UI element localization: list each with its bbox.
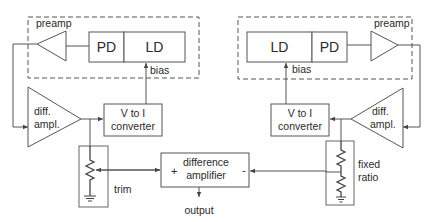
difference-amplifier-minus-input: - bbox=[242, 164, 246, 176]
difference-amplifier-plus-input: + bbox=[171, 165, 177, 177]
difference-amplifier-label-2: amplifier bbox=[186, 169, 226, 181]
right-laser-module: LD PD preamp bias bbox=[238, 17, 412, 79]
right-diff-amplifier: diff. ampl. bbox=[351, 88, 403, 148]
right-diff-amp-label-2: ampl. bbox=[370, 118, 396, 130]
output-label: output bbox=[184, 204, 213, 216]
right-pd-label: PD bbox=[320, 39, 339, 55]
left-laser-module: preamp PD LD bias bbox=[28, 17, 199, 78]
left-v-to-i-converter: V to I converter bbox=[104, 104, 162, 136]
left-vtoi-label-2: converter bbox=[111, 120, 155, 132]
fixed-ratio-label-2: ratio bbox=[358, 171, 379, 183]
left-diff-amp-label-2: ampl. bbox=[34, 118, 60, 130]
left-ld-label: LD bbox=[146, 39, 164, 55]
trim-box bbox=[79, 146, 108, 207]
left-diff-amp-label-1: diff. bbox=[34, 105, 51, 117]
left-diff-amp-triangle bbox=[28, 87, 81, 147]
fixed-ratio-box bbox=[326, 141, 354, 205]
right-vtoi-label-2: converter bbox=[278, 120, 322, 132]
right-diff-amp-label-1: diff. bbox=[372, 105, 389, 117]
fixed-ratio-label-1: fixed bbox=[358, 158, 380, 170]
right-bias-label: bias bbox=[292, 63, 311, 75]
left-preamp-triangle bbox=[37, 31, 66, 61]
left-pd-label: PD bbox=[97, 39, 116, 55]
right-ld-label: LD bbox=[271, 39, 289, 55]
lower-resistor-zigzag bbox=[337, 172, 345, 197]
right-preamp-label: preamp bbox=[374, 17, 410, 29]
laser-stabilization-block-diagram: preamp PD LD bias diff. ampl. V to I con… bbox=[0, 0, 432, 222]
right-preamp-triangle bbox=[371, 31, 398, 61]
difference-amplifier-label-1: difference bbox=[183, 156, 229, 168]
divider-to-diff-amp-minus-wire bbox=[250, 171, 341, 172]
difference-amplifier: + difference amplifier - bbox=[161, 153, 249, 187]
left-vtoi-label-1: V to I bbox=[121, 107, 146, 119]
right-v-to-i-converter: V to I converter bbox=[271, 104, 329, 136]
fixed-ratio-divider: fixed ratio bbox=[326, 119, 380, 205]
left-diff-amplifier: diff. ampl. bbox=[28, 87, 81, 147]
right-vtoi-label-1: V to I bbox=[288, 107, 313, 119]
left-preamp-label: preamp bbox=[36, 17, 72, 29]
left-bias-label: bias bbox=[150, 64, 169, 76]
trim-label: trim bbox=[114, 183, 132, 195]
upper-resistor-zigzag bbox=[337, 141, 345, 172]
trim-resistor-zigzag bbox=[86, 146, 94, 196]
